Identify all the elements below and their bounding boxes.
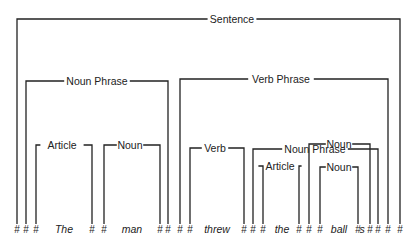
plural-suffix: s: [359, 223, 365, 235]
bracket-left-sentence: [17, 19, 208, 224]
boundary-marker: #: [89, 224, 95, 235]
word-threw: threw: [204, 223, 231, 235]
node-label-verb: Verb: [204, 142, 226, 154]
bracket-left-verb: [190, 148, 202, 224]
node-label-article1: Article: [47, 139, 76, 151]
boundary-marker: #: [296, 224, 302, 235]
bracket-right-noun2-outer: [352, 144, 370, 224]
bracket-left-np1: [26, 81, 64, 224]
word-the: the: [275, 223, 290, 235]
bracket-left-noun2-inner: [320, 167, 326, 224]
boundary-marker: #: [375, 224, 381, 235]
node-label-article2: Article: [265, 160, 294, 172]
labels-layer: SentenceNoun PhraseVerb PhraseArticleNou…: [47, 13, 351, 173]
phrase-structure-diagram: SentenceNoun PhraseVerb PhraseArticleNou…: [0, 0, 417, 248]
bracket-left-article2: [258, 166, 263, 224]
word-man: man: [122, 223, 143, 235]
boundary-marker: #: [33, 224, 39, 235]
brackets-layer: [17, 19, 400, 224]
bracket-right-article2: [299, 166, 302, 224]
node-label-sentence: Sentence: [210, 13, 255, 25]
baseline-layer: ####################Themanthrewtheballs: [14, 223, 403, 235]
bracket-right-noun1: [143, 145, 160, 224]
node-label-noun2-outer: Noun: [326, 138, 351, 150]
bracket-right-np2: [348, 149, 378, 224]
boundary-marker: #: [165, 224, 171, 235]
boundary-marker: #: [260, 224, 266, 235]
boundary-marker: #: [385, 224, 391, 235]
node-article2: [258, 166, 301, 224]
boundary-marker: #: [187, 224, 193, 235]
word-ball: ball: [331, 223, 348, 235]
bracket-right-np1: [130, 81, 168, 224]
bracket-left-article1: [36, 145, 40, 224]
node-label-vp: Verb Phrase: [252, 73, 310, 85]
node-verb: [190, 148, 244, 224]
node-article1: [36, 145, 92, 224]
boundary-marker: #: [157, 224, 163, 235]
bracket-right-article1: [84, 145, 92, 224]
node-label-np1: Noun Phrase: [66, 75, 127, 87]
bracket-left-noun1: [104, 145, 117, 224]
node-noun2-outer: [309, 144, 370, 224]
boundary-marker: #: [250, 224, 256, 235]
bracket-left-noun2-outer: [309, 144, 326, 224]
boundary-marker: #: [317, 224, 323, 235]
word-the: The: [55, 223, 73, 235]
bracket-right-verb: [228, 148, 244, 224]
boundary-marker: #: [397, 224, 403, 235]
boundary-marker: #: [101, 224, 107, 235]
boundary-marker: #: [306, 224, 312, 235]
node-label-noun2-inner: Noun: [326, 161, 351, 173]
boundary-marker: #: [14, 224, 20, 235]
bracket-right-noun2-inner: [352, 167, 358, 224]
boundary-marker: #: [23, 224, 29, 235]
boundary-marker: #: [367, 224, 373, 235]
boundary-marker: #: [241, 224, 247, 235]
node-np1: [26, 81, 168, 224]
node-noun1: [104, 145, 160, 224]
node-sentence: [17, 19, 400, 224]
boundary-marker: #: [177, 224, 183, 235]
node-label-noun1: Noun: [117, 139, 142, 151]
node-noun2-inner: [320, 167, 358, 224]
